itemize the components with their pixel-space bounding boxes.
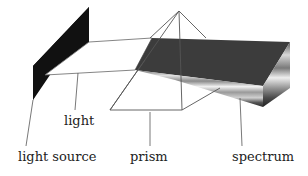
prism-diagram: light light source prism spectrum [0,0,308,176]
label-light-source: light source [18,150,96,163]
label-light: light [64,114,94,127]
spectrum-top [135,38,290,86]
label-spectrum: spectrum [232,150,294,163]
label-prism: prism [130,150,168,163]
